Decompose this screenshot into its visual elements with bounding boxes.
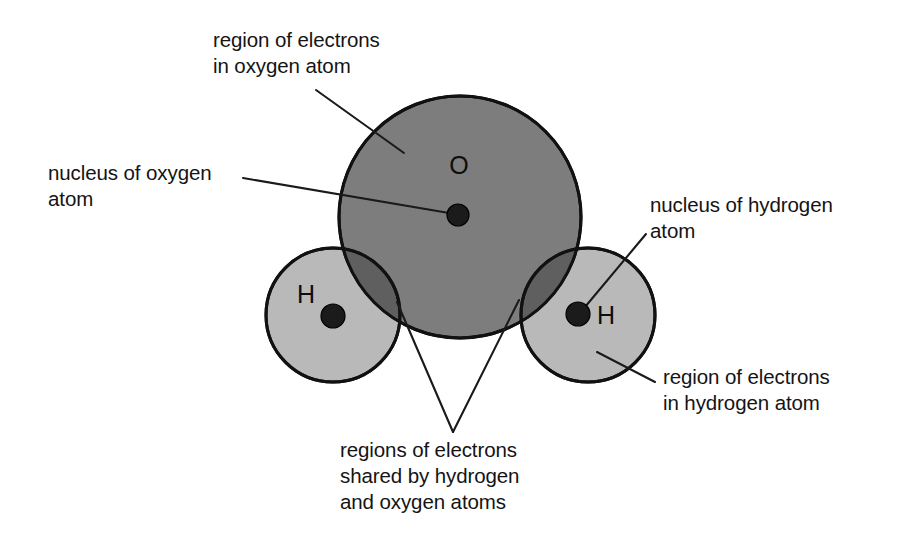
label-line: in oxygen atom xyxy=(213,54,351,77)
label-shared-regions: regions of electrons shared by hydrogen … xyxy=(340,438,519,513)
hydrogen-right-nucleus xyxy=(566,302,590,326)
hydrogen-right-symbol-label: H xyxy=(597,301,615,329)
oxygen-nucleus xyxy=(447,204,469,226)
hydrogen-left-symbol-label: H xyxy=(297,280,315,308)
label-line: region of electrons xyxy=(213,28,380,51)
molecule-illustration: O H H region of electrons in oxygen atom… xyxy=(0,0,911,539)
hydrogen-left-nucleus xyxy=(321,304,345,328)
label-line: regions of electrons xyxy=(340,438,517,461)
label-line: in hydrogen atom xyxy=(663,391,820,414)
label-line: atom xyxy=(650,219,695,242)
label-line: and oxygen atoms xyxy=(340,490,506,513)
water-molecule-diagram: O H H region of electrons in oxygen atom… xyxy=(0,0,911,539)
label-line: region of electrons xyxy=(663,365,830,388)
label-line: nucleus of oxygen xyxy=(48,161,212,184)
label-line: atom xyxy=(48,187,93,210)
label-line: shared by hydrogen xyxy=(340,464,519,487)
oxygen-symbol-label: O xyxy=(449,151,468,179)
label-line: nucleus of hydrogen xyxy=(650,193,833,216)
